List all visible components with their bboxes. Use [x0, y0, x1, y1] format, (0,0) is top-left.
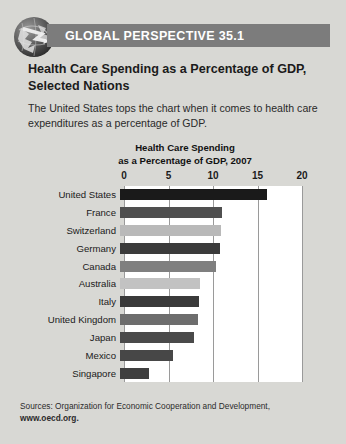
bar	[120, 278, 200, 289]
bar-category-label: Mexico	[20, 350, 120, 361]
box-title: Health Care Spending as a Percentage of …	[28, 61, 328, 94]
bar-category-label: United States	[20, 189, 120, 200]
bar-row: Italy	[20, 293, 326, 311]
bar-row: United Kingdom	[20, 311, 326, 329]
bar-category-label: Singapore	[20, 368, 120, 379]
bar-category-label: Switzerland	[20, 225, 120, 236]
bar	[120, 368, 149, 379]
bar-chart: Health Care Spending as a Percentage of …	[20, 142, 326, 392]
bar	[120, 332, 194, 343]
bar-category-label: Japan	[20, 332, 120, 343]
bar-row: Japan	[20, 329, 326, 347]
bar	[120, 296, 199, 307]
bar-row: Germany	[20, 239, 326, 257]
bar-rows: United StatesFranceSwitzerlandGermanyCan…	[20, 186, 326, 382]
header-band: GLOBAL PERSPECTIVE 35.1	[47, 24, 330, 47]
chart-title-line2: as a Percentage of GDP, 2007	[44, 155, 326, 168]
source-note: Sources: Organization for Economic Coope…	[20, 400, 326, 424]
bar-category-label: Italy	[20, 296, 120, 307]
bar	[120, 314, 198, 325]
chart-title-line1: Health Care Spending	[44, 142, 326, 155]
bar-row: Australia	[20, 275, 326, 293]
bar-category-label: Germany	[20, 243, 120, 254]
source-line-2: www.oecd.org.	[20, 413, 79, 423]
bar-row: United States	[20, 186, 326, 204]
x-axis-ticks: 05101520	[20, 170, 326, 184]
bar-row: Mexico	[20, 346, 326, 364]
bar-category-label: Australia	[20, 278, 120, 289]
x-tick-label: 20	[296, 170, 307, 181]
bar-category-label: United Kingdom	[20, 314, 120, 325]
bar-row: Switzerland	[20, 222, 326, 240]
bar-row: Singapore	[20, 364, 326, 382]
chart-title: Health Care Spending as a Percentage of …	[44, 142, 326, 168]
bar	[120, 243, 220, 254]
bar-category-label: France	[20, 207, 120, 218]
x-tick-label: 10	[207, 170, 218, 181]
bar-row: Canada	[20, 257, 326, 275]
box-description: The United States tops the chart when it…	[28, 101, 328, 131]
bar	[120, 350, 173, 361]
x-tick-label: 0	[121, 170, 127, 181]
global-perspective-box: GLOBAL PERSPECTIVE 35.1 Health Care Spen…	[0, 0, 346, 444]
bar	[120, 189, 267, 200]
x-tick-label: 15	[252, 170, 263, 181]
x-tick-label: 5	[166, 170, 172, 181]
bar	[120, 261, 216, 272]
bar-row: France	[20, 204, 326, 222]
bar-category-label: Canada	[20, 261, 120, 272]
source-line-1: Sources: Organization for Economic Coope…	[20, 401, 270, 411]
bar	[120, 207, 222, 218]
bar	[120, 225, 221, 236]
header-title: GLOBAL PERSPECTIVE 35.1	[47, 29, 244, 43]
